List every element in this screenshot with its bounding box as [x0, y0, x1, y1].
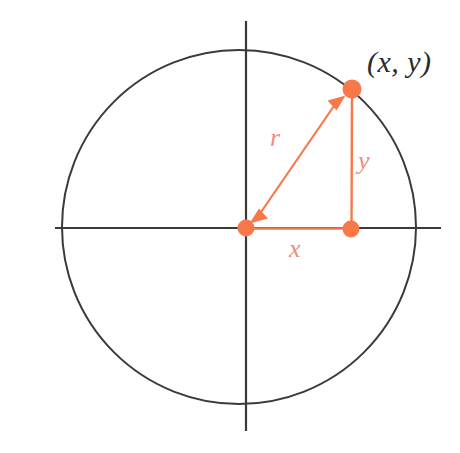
vertical-leg-label: y [358, 148, 370, 174]
figure-canvas: (x, y) r y x [0, 0, 460, 453]
radius-segment-shaft [259, 103, 336, 215]
radius-arrowhead-outward [328, 96, 346, 111]
point-coordinate-label: (x, y) [367, 47, 432, 77]
foot-point-dot [343, 221, 360, 238]
origin-point-dot [238, 220, 255, 237]
radius-arrowhead-inward [250, 209, 269, 224]
horizontal-leg-label: x [289, 236, 301, 262]
circle-point-dot [343, 80, 362, 99]
vertical-leg-segment [352, 90, 353, 229]
radius-label: r [270, 125, 280, 151]
